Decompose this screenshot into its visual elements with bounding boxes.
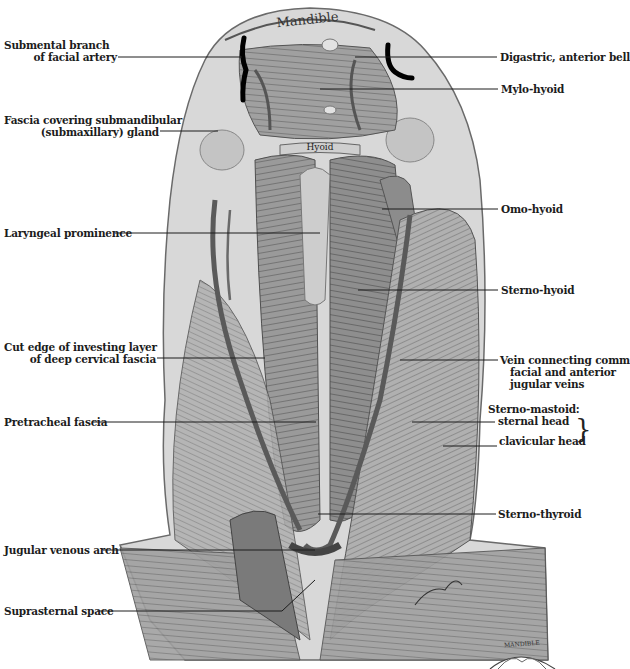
label-sterno-hyoid: Sterno-hyoid [501,284,574,296]
brace-sterno-mastoid: } [575,414,592,444]
label-sterno-mastoid: Sterno-mastoid: sternal head clavicular … [488,403,586,447]
label-vein-connecting: Vein connecting comm facial and anterior… [500,354,630,390]
label-cut-edge: Cut edge of investing layer of deep cerv… [4,341,156,365]
label-sterno-thyroid: Sterno-thyroid [498,508,581,520]
label-jugular-venous-arch: Jugular venous arch [4,544,119,556]
hyoid-label: Hyoid [307,142,334,152]
label-mylo-hyoid: Mylo-hyoid [501,83,564,95]
label-pretracheal-fascia: Pretracheal fascia [4,416,107,428]
label-laryngeal-prominence: Laryngeal prominence [4,227,132,239]
label-fascia-submandibular: Fascia covering submandibular (submaxill… [4,114,159,138]
label-digastric: Digastric, anterior bell [500,51,630,63]
label-omo-hyoid: Omo-hyoid [501,203,563,215]
label-submental-branch: Submental branch of facial artery [4,39,117,63]
label-suprasternal-space: Suprasternal space [4,605,113,617]
